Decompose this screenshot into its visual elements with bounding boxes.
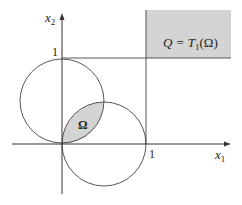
omega-label: Ω [78, 118, 88, 132]
x-axis-label: x1 [214, 147, 225, 164]
q-label: Q = T1(Ω) [163, 35, 218, 52]
y-axis-arrow-icon [60, 13, 65, 20]
diagram-canvas: x2 x1 1 1 Ω Q = T1(Ω) [0, 0, 242, 205]
y-axis-label: x2 [44, 10, 55, 27]
x-axis-arrow-icon [224, 142, 231, 147]
region-q [146, 10, 231, 58]
y-tick-label: 1 [52, 45, 58, 59]
x-tick-label: 1 [149, 147, 155, 161]
